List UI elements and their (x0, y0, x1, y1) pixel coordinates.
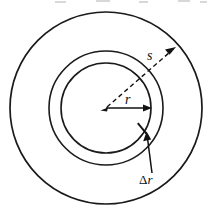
arc-length-arrowhead (165, 47, 176, 55)
radius-leader-tail (101, 108, 109, 112)
scan-artifact (178, 0, 190, 2)
annulus-diagram-canvas (0, 0, 208, 210)
scan-artifact (55, 1, 66, 3)
ring-thickness-tick (138, 123, 147, 133)
ring-thickness-label: Δr (139, 173, 152, 186)
scan-artifact (96, 0, 110, 2)
scan-artifact (200, 1, 207, 3)
scan-artifact (139, 1, 148, 3)
annulus-figure: s r Δr (0, 0, 208, 210)
radius-label: r (125, 93, 130, 107)
thickness-variable-glyph: r (147, 172, 152, 187)
arc-length-label: s (147, 49, 152, 63)
